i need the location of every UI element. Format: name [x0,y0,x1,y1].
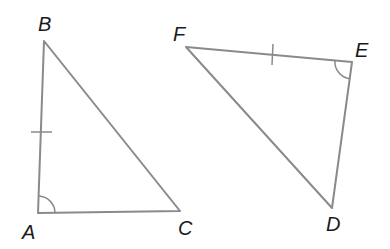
vertex-label-b: B [38,13,51,35]
angle-a-arc [39,196,55,213]
vertex-label-a: A [21,221,35,243]
side-fe-tick-mark [272,44,273,65]
triangle-abc-outline [38,41,180,213]
vertex-label-e: E [355,39,369,61]
vertex-label-d: D [326,213,340,235]
triangle-abc [31,41,180,213]
vertex-label-f: F [173,23,187,45]
angle-e-arc [335,61,350,79]
diagram-canvas: B A C F E D [0,0,390,249]
triangle-def [186,44,352,208]
vertex-label-c: C [178,217,193,239]
triangle-def-outline [186,47,352,208]
